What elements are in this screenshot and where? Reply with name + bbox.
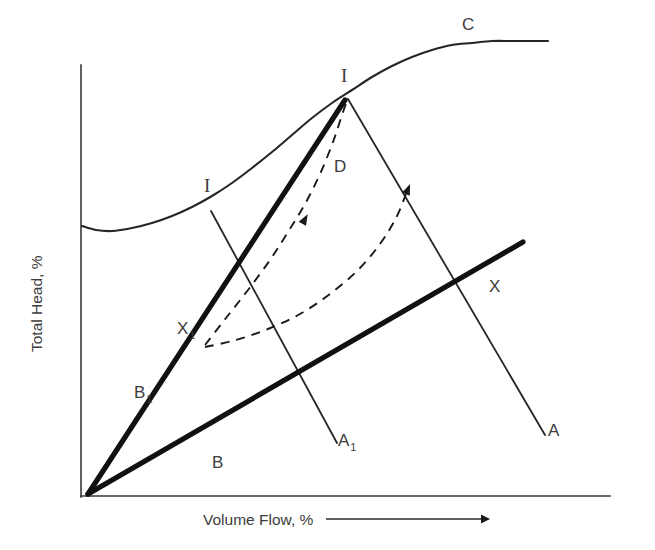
plot-svg: CIIDXX1B1BA1A Total Head, % Volume Flow,… (0, 0, 655, 550)
label-i-upper: I (341, 65, 347, 86)
label-c: C (462, 15, 474, 34)
thick-lines-group (88, 100, 523, 494)
x-axis-title: Volume Flow, % (203, 511, 313, 528)
annotation-layer: CIIDXX1B1BA1A (134, 15, 560, 472)
dashed-paths-group (205, 99, 410, 347)
label-x1-subscript: 1 (189, 329, 195, 341)
label-a: A (548, 421, 560, 440)
y-axis-title: Total Head, % (28, 255, 45, 352)
line-a-path (348, 99, 545, 435)
label-b1: B1 (134, 383, 152, 405)
x-axis-arrow-group (326, 515, 490, 524)
label-a1: A1 (338, 431, 356, 453)
curve-c-group (82, 41, 548, 231)
label-a1-subscript: 1 (350, 441, 356, 453)
line-b-path (88, 242, 523, 494)
figure-container: CIIDXX1B1BA1A Total Head, % Volume Flow,… (0, 0, 655, 550)
transition-path-upper (205, 99, 348, 345)
label-b: B (212, 453, 223, 472)
label-x1: X1 (177, 319, 195, 341)
label-i-left: I (204, 175, 210, 196)
arrowhead-upper-icon (299, 214, 308, 226)
label-x: X (489, 277, 500, 296)
curve-c-path (82, 41, 548, 231)
label-d: D (334, 157, 346, 176)
right-arrow-icon (481, 515, 490, 524)
line-b1-path (88, 100, 345, 494)
label-b1-subscript: 1 (146, 393, 152, 405)
